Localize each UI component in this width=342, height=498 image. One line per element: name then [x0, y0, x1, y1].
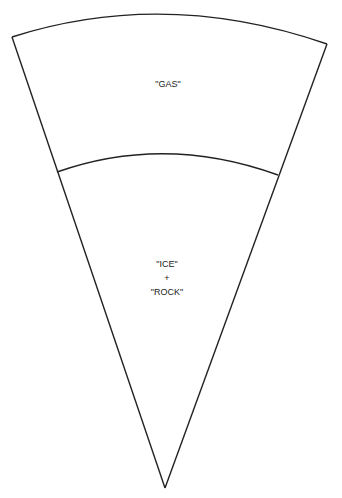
- plus-sign: +: [117, 271, 217, 285]
- ice-rock-region-label: "ICE" + "ROCK": [117, 257, 217, 299]
- wedge-diagram: [0, 0, 342, 498]
- gas-region-label: "GAS": [118, 77, 218, 91]
- inner-boundary-arc: [57, 154, 278, 175]
- outer-boundary-arc: [12, 14, 327, 44]
- rock-label: "ROCK": [117, 285, 217, 299]
- ice-label: "ICE": [117, 257, 217, 271]
